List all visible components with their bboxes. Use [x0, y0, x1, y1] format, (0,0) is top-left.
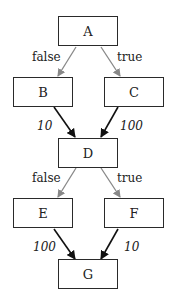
edge-label-d-e: false [32, 171, 61, 185]
edge-e-g [54, 229, 75, 259]
edge-label-b-d: 10 [37, 119, 52, 133]
node-b-label: B [38, 85, 48, 100]
node-d: D [58, 138, 118, 168]
node-a: A [58, 16, 118, 46]
node-g-label: G [83, 267, 93, 282]
edge-label-a-c: true [117, 50, 142, 64]
edge-label-e-g: 100 [33, 240, 56, 254]
node-c: C [104, 77, 164, 107]
node-e-label: E [38, 206, 48, 221]
node-f-label: F [129, 206, 138, 221]
node-e: E [13, 198, 73, 228]
edge-label-f-g: 10 [124, 240, 139, 254]
node-b: B [13, 77, 73, 107]
edge-label-d-f: true [117, 171, 142, 185]
node-a-label: A [83, 24, 92, 39]
node-c-label: C [129, 85, 139, 100]
edge-c-d [101, 107, 118, 137]
edge-f-g [101, 229, 118, 259]
node-d-label: D [83, 146, 93, 161]
edge-label-c-d: 100 [120, 119, 143, 133]
node-g: G [58, 259, 118, 289]
edge-b-d [54, 107, 75, 137]
edge-label-a-b: false [32, 50, 61, 64]
node-f: F [104, 198, 164, 228]
